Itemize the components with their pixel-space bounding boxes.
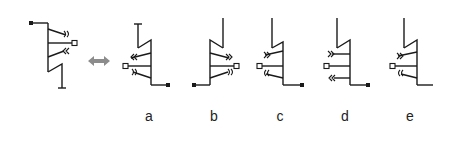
option-c-symbol bbox=[257, 18, 304, 87]
option-b-symbol bbox=[192, 18, 239, 87]
option-e-label: e bbox=[400, 108, 420, 124]
option-c-label: c bbox=[270, 108, 290, 124]
option-e-symbol bbox=[390, 18, 433, 85]
option-d-label: d bbox=[335, 108, 355, 124]
reference-symbol bbox=[29, 21, 77, 88]
option-a-label: a bbox=[139, 108, 159, 124]
double-headed-arrow bbox=[88, 56, 110, 66]
option-b-label: b bbox=[204, 108, 224, 124]
option-a-symbol bbox=[123, 24, 170, 87]
option-d-symbol bbox=[324, 18, 370, 87]
diagram-canvas: a b c d e bbox=[0, 0, 457, 145]
